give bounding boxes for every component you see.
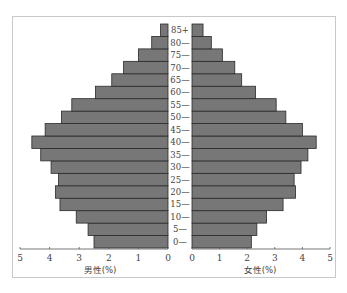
tick-label: 3 bbox=[272, 253, 278, 263]
age-label: 55— bbox=[170, 100, 190, 110]
female-bar bbox=[192, 198, 283, 210]
age-label: 80— bbox=[170, 38, 190, 48]
age-label: 75— bbox=[170, 50, 190, 60]
male-bar bbox=[88, 223, 168, 235]
tick-label: 5 bbox=[327, 253, 333, 263]
age-label: 65— bbox=[170, 75, 190, 85]
male-bar bbox=[161, 24, 168, 36]
age-label: 20— bbox=[170, 187, 190, 197]
female-bar bbox=[192, 99, 276, 111]
female-bars bbox=[192, 24, 316, 248]
age-label: 25— bbox=[170, 175, 190, 185]
age-label: 35— bbox=[170, 150, 190, 160]
male-bar bbox=[124, 61, 168, 73]
age-label: 50— bbox=[170, 112, 190, 122]
age-label: 30— bbox=[170, 162, 190, 172]
population-pyramid-chart: 0—5—10—15—20—25—30—35—40—45—50—55—60—65—… bbox=[0, 0, 347, 293]
female-bar bbox=[192, 61, 235, 73]
age-label: 0— bbox=[173, 237, 187, 247]
age-label: 85+ bbox=[171, 25, 189, 35]
male-bar bbox=[138, 49, 168, 61]
female-bar bbox=[192, 36, 211, 48]
female-bar bbox=[192, 148, 308, 160]
male-bar bbox=[60, 198, 168, 210]
male-bar bbox=[76, 211, 168, 223]
male-bar bbox=[58, 173, 168, 185]
age-label: 40— bbox=[170, 137, 190, 147]
female-x-axis: 012345 bbox=[189, 247, 333, 263]
tick-label: 2 bbox=[106, 253, 112, 263]
male-x-axis: 543210 bbox=[17, 247, 171, 263]
female-axis-title: 女性(%) bbox=[244, 265, 277, 275]
male-bar bbox=[112, 74, 168, 86]
tick-label: 3 bbox=[76, 253, 82, 263]
female-bar bbox=[192, 173, 294, 185]
tick-label: 1 bbox=[136, 253, 142, 263]
female-bar bbox=[192, 161, 301, 173]
tick-label: 2 bbox=[244, 253, 250, 263]
female-bar bbox=[192, 186, 296, 198]
male-bar bbox=[32, 136, 168, 148]
female-bar bbox=[192, 223, 257, 235]
male-bar bbox=[95, 86, 168, 98]
male-bar bbox=[94, 236, 168, 248]
tick-label: 0 bbox=[189, 253, 195, 263]
male-bar bbox=[56, 186, 168, 198]
female-bar bbox=[192, 211, 267, 223]
age-label: 45— bbox=[170, 125, 190, 135]
male-bar bbox=[61, 111, 168, 123]
age-label: 10— bbox=[170, 212, 190, 222]
male-axis-title: 男性(%) bbox=[84, 265, 117, 275]
male-bar bbox=[45, 124, 168, 136]
male-bars bbox=[32, 24, 168, 248]
age-label: 60— bbox=[170, 87, 190, 97]
female-bar bbox=[192, 124, 302, 136]
female-bar bbox=[192, 24, 203, 36]
male-bar bbox=[72, 99, 168, 111]
female-bar bbox=[192, 86, 255, 98]
tick-label: 1 bbox=[217, 253, 223, 263]
age-label: 70— bbox=[170, 63, 190, 73]
female-bar bbox=[192, 136, 316, 148]
female-bar bbox=[192, 236, 251, 248]
female-bar bbox=[192, 111, 286, 123]
tick-label: 4 bbox=[300, 253, 306, 263]
tick-label: 4 bbox=[47, 253, 53, 263]
tick-label: 0 bbox=[165, 253, 171, 263]
age-label: 15— bbox=[170, 199, 190, 209]
tick-label: 5 bbox=[17, 253, 23, 263]
male-bar bbox=[51, 161, 168, 173]
age-group-labels: 0—5—10—15—20—25—30—35—40—45—50—55—60—65—… bbox=[170, 25, 190, 247]
male-bar bbox=[152, 36, 168, 48]
female-bar bbox=[192, 49, 222, 61]
female-bar bbox=[192, 74, 242, 86]
male-bar bbox=[41, 148, 168, 160]
age-label: 5— bbox=[173, 224, 187, 234]
